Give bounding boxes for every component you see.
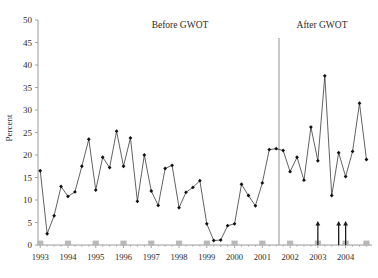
- x-axis-tick-label: 2000: [226, 252, 243, 262]
- percent-line-chart: 05101520253035404550 1993199419951996199…: [0, 0, 378, 278]
- x-axis-tick-label: 1995: [87, 252, 104, 262]
- x-axis-tick-label: 2003: [309, 252, 326, 262]
- chart-figure: 05101520253035404550 1993199419951996199…: [0, 0, 378, 278]
- baseline-square-marker: [231, 241, 237, 246]
- baseline-square-marker: [363, 241, 369, 246]
- y-axis-tick-label: 15: [23, 173, 33, 183]
- y-axis-tick-label: 45: [23, 38, 33, 48]
- baseline-square-marker: [259, 241, 265, 246]
- y-axis-tick-label: 10: [23, 195, 33, 205]
- baseline-square-marker: [93, 241, 99, 246]
- chart-background: [0, 0, 378, 278]
- x-axis-tick-label: 1996: [115, 252, 133, 262]
- y-axis-tick-label: 40: [23, 60, 33, 70]
- baseline-square-marker: [176, 241, 182, 246]
- x-axis-tick-label: 2004: [337, 252, 355, 262]
- x-axis-tick-label: 1998: [170, 252, 187, 262]
- baseline-square-marker: [148, 241, 154, 246]
- y-axis-tick-label: 0: [28, 240, 33, 250]
- x-axis-tick-label: 1997: [143, 252, 161, 262]
- y-axis-tick-label: 50: [23, 15, 33, 25]
- baseline-square-marker: [287, 241, 293, 246]
- before-gwot-label: Before GWOT: [152, 20, 209, 30]
- x-axis-tick-label: 1999: [198, 252, 215, 262]
- y-axis-tick-label: 5: [28, 218, 33, 228]
- x-axis-tick-label: 2002: [282, 252, 299, 262]
- x-axis-tick-label: 1994: [59, 252, 77, 262]
- x-axis-tick-label: 1993: [32, 252, 49, 262]
- baseline-square-marker: [120, 241, 126, 246]
- y-axis-tick-label: 25: [23, 128, 33, 138]
- y-axis-tick-label: 30: [23, 105, 33, 115]
- y-axis-title: Percent: [4, 114, 14, 141]
- after-gwot-label: After GWOT: [297, 20, 348, 30]
- baseline-square-marker: [65, 241, 71, 246]
- y-axis-tick-label: 20: [23, 150, 33, 160]
- y-axis-tick-label: 35: [23, 83, 33, 93]
- x-axis-tick-label: 2001: [254, 252, 271, 262]
- baseline-square-marker: [204, 241, 210, 246]
- baseline-square-marker: [37, 241, 43, 246]
